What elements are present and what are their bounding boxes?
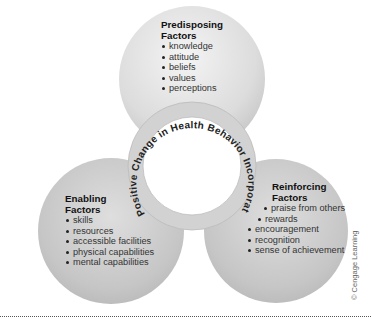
list-item: recognition — [247, 235, 345, 246]
list-item: physical capabilities — [65, 247, 154, 258]
list-item: rewards — [257, 214, 345, 225]
reinforcing-title-1: Reinforcing — [247, 181, 345, 192]
list-item: mental capabilities — [65, 257, 154, 268]
list-item: attitude — [161, 52, 223, 63]
copyright-notice: © Cengage Learning — [350, 231, 359, 300]
list-item: encouragement — [247, 224, 345, 235]
enabling-factors: Enabling Factors skills resources access… — [65, 193, 154, 268]
list-item: praise from others — [263, 203, 345, 214]
dotted-divider — [0, 316, 371, 317]
reinforcing-title-2: Factors — [247, 192, 345, 203]
predisposing-title-1: Predisposing — [161, 19, 223, 30]
enabling-title-1: Enabling — [65, 193, 154, 204]
reinforcing-factors: Reinforcing Factors praise from others r… — [247, 181, 345, 256]
list-item: values — [161, 73, 223, 84]
list-item: beliefs — [161, 62, 223, 73]
list-item: perceptions — [161, 83, 223, 94]
list-item: accessible facilities — [65, 236, 154, 247]
predisposing-factors: Predisposing Factors knowledge attitude … — [161, 19, 223, 94]
list-item: skills — [65, 215, 154, 226]
list-item: sense of achievement — [247, 245, 345, 256]
enabling-title-2: Factors — [65, 204, 154, 215]
list-item: resources — [65, 226, 154, 237]
predisposing-title-2: Factors — [161, 30, 223, 41]
list-item: knowledge — [161, 41, 223, 52]
